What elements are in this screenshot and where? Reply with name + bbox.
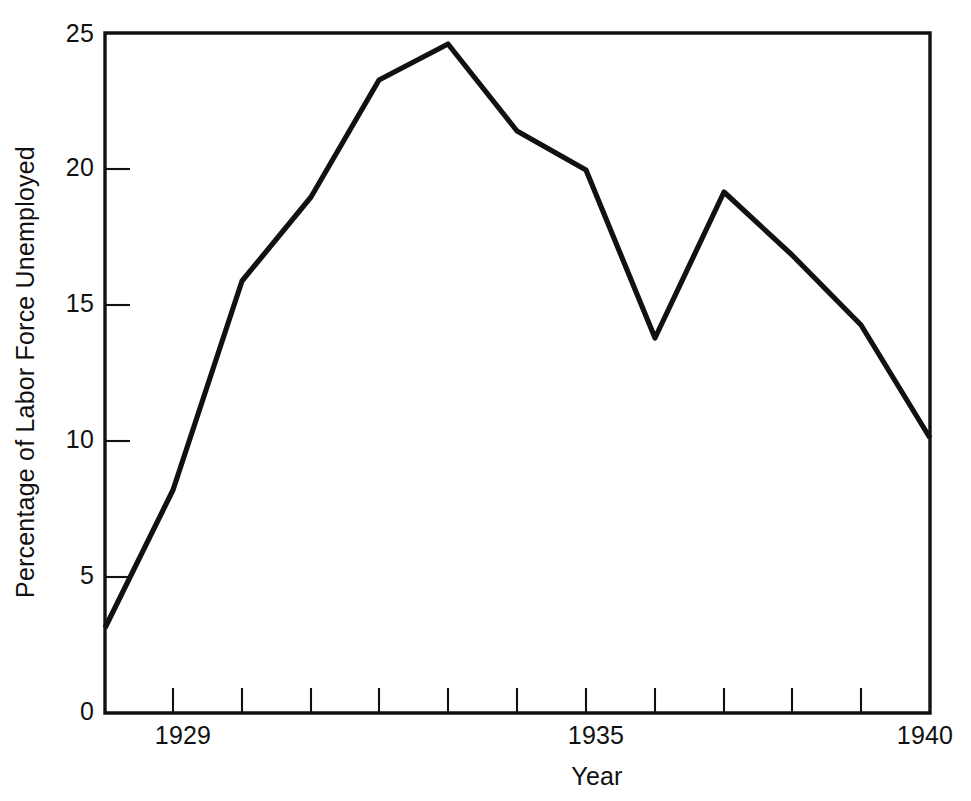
x-axis-ticks — [173, 688, 861, 713]
chart-container: 0 5 10 15 20 25 1929 1935 1940 — [0, 0, 971, 801]
y-axis-tick-labels: 0 5 10 15 20 25 — [66, 19, 94, 725]
axis-frame-path — [105, 33, 930, 713]
x-tick-label-1929: 1929 — [155, 721, 211, 749]
y-tick-label-20: 20 — [66, 153, 94, 181]
y-tick-label-5: 5 — [80, 561, 94, 589]
data-series-group — [105, 44, 930, 628]
y-tick-label-15: 15 — [66, 289, 94, 317]
x-tick-label-1935: 1935 — [568, 721, 624, 749]
plot-frame — [105, 33, 930, 713]
y-axis-ticks — [105, 169, 130, 577]
y-tick-label-25: 25 — [66, 19, 94, 47]
unemployment-series-line — [105, 44, 930, 628]
x-axis-tick-labels: 1929 1935 1940 — [155, 721, 953, 749]
y-tick-label-0: 0 — [80, 697, 94, 725]
y-axis-title: Percentage of Labor Force Unemployed — [11, 146, 39, 598]
x-axis-title: Year — [571, 762, 622, 790]
y-tick-label-10: 10 — [66, 425, 94, 453]
unemployment-line-chart: 0 5 10 15 20 25 1929 1935 1940 — [0, 0, 971, 801]
x-tick-label-1940: 1940 — [897, 721, 953, 749]
